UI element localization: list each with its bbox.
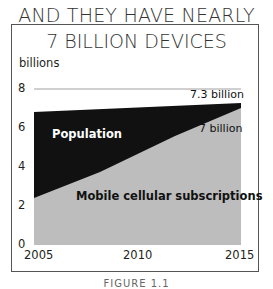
population-label: Population — [52, 127, 122, 141]
figure-caption: FIGURE 1.1 — [0, 278, 273, 289]
x-tick-2005: 2005 — [24, 248, 53, 262]
mobile-label: Mobile cellular subscriptions — [76, 189, 262, 203]
x-tick-2010: 2010 — [123, 248, 152, 262]
annotation-7-billion: 7 billion — [199, 122, 242, 135]
x-tick-2015: 2015 — [225, 248, 254, 262]
annotation-7-3-billion: 7.3 billion — [190, 88, 244, 101]
